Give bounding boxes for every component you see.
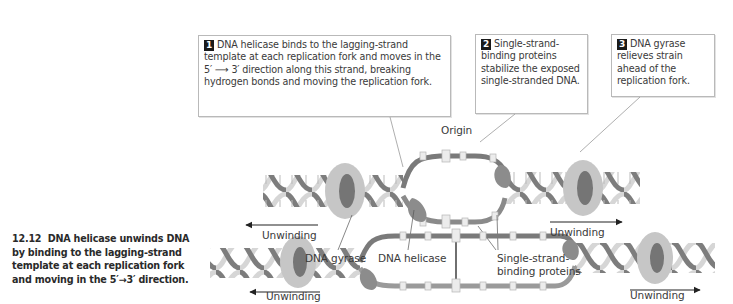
figure-caption: 12.12 DNA helicase unwinds DNA by bindin… — [12, 232, 202, 286]
unwinding-label-top-right: Unwinding — [550, 226, 605, 238]
ssb-label-line2: binding proteins — [497, 265, 581, 277]
dna-gyrase-label: DNA gyrase — [305, 252, 366, 264]
ssb-label-line1: Single-strand- — [497, 252, 569, 264]
unwinding-label-bottom-left: Unwinding — [266, 290, 321, 302]
unwinding-label-bottom-right: Unwinding — [630, 289, 685, 301]
bottom-helicase-left — [360, 268, 377, 290]
origin-label: Origin — [441, 124, 472, 136]
figure-number: 12.12 — [12, 233, 41, 244]
dna-helicase-label: DNA helicase — [378, 252, 446, 264]
unwinding-label-top-left: Unwinding — [262, 229, 317, 241]
